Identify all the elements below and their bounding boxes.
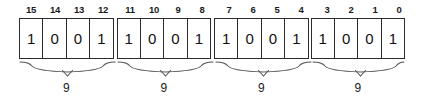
group-value-label: 9 (214, 80, 309, 96)
group-value-label: 9 (19, 80, 114, 96)
bit-cell: 1 (312, 19, 335, 58)
bit-cell: 0 (335, 19, 358, 58)
bit-index-label: 7 (217, 3, 241, 16)
brace-nibble-0 (313, 62, 404, 72)
bit-index-label: 8 (190, 3, 214, 16)
bit-index-group: 15 14 13 12 (19, 3, 115, 16)
bit-index-label: 5 (265, 3, 289, 16)
bit-cell: 1 (285, 19, 307, 58)
bit-index-group: 7 6 5 4 (217, 3, 313, 16)
bit-index-label: 14 (43, 3, 67, 16)
bit-cell: 0 (67, 19, 90, 58)
bit-cell: 1 (118, 19, 141, 58)
bit-cells-row: 1 0 0 1 1 0 0 1 1 0 0 1 1 0 0 1 (19, 18, 405, 59)
group-value-row: 9 9 9 9 (19, 80, 405, 96)
bit-index-label: 13 (67, 3, 91, 16)
bit-cell: 0 (238, 19, 261, 58)
brace-nibble-3-tip (63, 71, 73, 77)
bit-index-label: 15 (19, 3, 43, 16)
nibble-group-0: 1 0 0 1 (311, 18, 406, 59)
bit-index-label: 4 (289, 3, 313, 16)
bit-cell: 0 (262, 19, 285, 58)
bit-cell: 1 (382, 19, 404, 58)
brace-nibble-0-tip (356, 71, 366, 77)
bit-index-label: 3 (315, 3, 339, 16)
bit-cell: 1 (215, 19, 238, 58)
bit-index-label: 10 (142, 3, 166, 16)
bit-cell: 0 (164, 19, 187, 58)
group-value-label: 9 (117, 80, 212, 96)
bit-index-label: 0 (387, 3, 411, 16)
bit-cell: 1 (20, 19, 43, 58)
brace-nibble-1 (216, 62, 311, 72)
brace-nibble-2 (118, 62, 213, 72)
bit-index-label: 12 (91, 3, 115, 16)
bit-cell: 0 (43, 19, 66, 58)
bit-index-row: 15 14 13 12 11 10 9 8 7 6 5 4 3 2 1 0 (19, 3, 405, 16)
nibble-group-3: 1 0 0 1 (19, 18, 114, 59)
nibble-group-2: 1 0 0 1 (117, 18, 212, 59)
bit-index-label: 6 (241, 3, 265, 16)
brace-nibble-1-tip (259, 71, 269, 77)
bit-cell: 1 (188, 19, 210, 58)
bit-index-group: 11 10 9 8 (118, 3, 214, 16)
bit-cell: 0 (141, 19, 164, 58)
bit-index-label: 11 (118, 3, 142, 16)
brace-nibble-3 (20, 62, 115, 72)
bit-cell: 0 (358, 19, 381, 58)
bit-index-label: 2 (339, 3, 363, 16)
nibble-group-1: 1 0 0 1 (214, 18, 309, 59)
bit-index-label: 9 (166, 3, 190, 16)
bit-index-group: 3 2 1 0 (315, 3, 411, 16)
group-value-label: 9 (311, 80, 406, 96)
bit-index-label: 1 (363, 3, 387, 16)
brace-nibble-2-tip (161, 71, 171, 77)
bit-cell: 1 (90, 19, 112, 58)
bit-register-figure: 15 14 13 12 11 10 9 8 7 6 5 4 3 2 1 0 1 … (0, 0, 422, 104)
